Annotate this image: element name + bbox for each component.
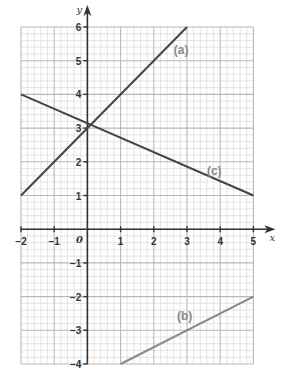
y-tick-label: 3 [76,123,82,134]
y-tick-label: 5 [76,56,82,67]
x-tick-label: −2 [15,236,27,247]
y-tick-label: −2 [70,292,82,303]
y-tick-label: 2 [76,157,82,168]
x-tick-label: 2 [151,236,157,247]
y-tick-label: 6 [76,22,82,33]
line-label-a: (a) [174,43,189,57]
line-label-b: (b) [177,309,192,323]
y-tick-label: −1 [70,258,82,269]
x-tick-label: −1 [48,236,60,247]
origin-label: 0 [76,234,83,245]
coordinate-graph: xy −2−1123450−4−3−2−1123456 (a)(b)(c) [0,0,285,385]
line-c [21,94,253,195]
line-label-c: (c) [207,164,222,178]
line-a [21,27,187,196]
x-tick-label: 4 [217,236,223,247]
x-tick-label: 5 [251,236,257,247]
y-tick-label: −4 [70,359,82,370]
line-labels: (a)(b)(c) [174,43,222,323]
x-tick-label: 1 [118,236,124,247]
y-axis-label: y [75,4,82,15]
x-tick-label: 3 [184,236,190,247]
y-tick-label: 4 [76,89,82,100]
x-axis-label: x [269,232,275,243]
y-tick-label: 1 [76,191,82,202]
y-tick-label: −3 [70,325,82,336]
